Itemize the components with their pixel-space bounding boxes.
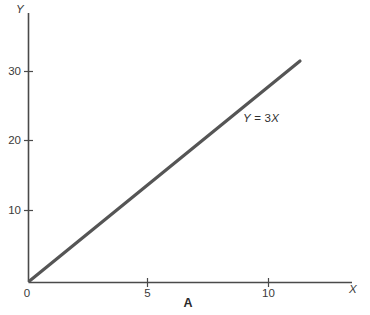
x-axis-label: X xyxy=(349,284,357,296)
equation-x-symbol: X xyxy=(271,112,279,124)
x-tick-label-10: 10 xyxy=(257,288,280,300)
panel-label: A xyxy=(172,297,204,310)
origin-label: 0 xyxy=(19,288,35,300)
data-line-y-equals-3x xyxy=(30,61,301,281)
y-axis-label: Y xyxy=(16,4,24,16)
equation-operator: = 3 xyxy=(251,112,271,124)
y-tick-label-10: 10 xyxy=(0,205,21,217)
equation-y-symbol: Y xyxy=(243,112,251,124)
equation-annotation: Y = 3X xyxy=(243,113,279,125)
x-tick-label-5: 5 xyxy=(138,288,157,300)
plot-canvas xyxy=(0,0,370,315)
chart-figure: Y X 30 20 10 0 5 10 Y = 3X A xyxy=(0,0,370,315)
y-tick-label-20: 20 xyxy=(0,135,21,147)
y-tick-label-30: 30 xyxy=(0,66,21,78)
